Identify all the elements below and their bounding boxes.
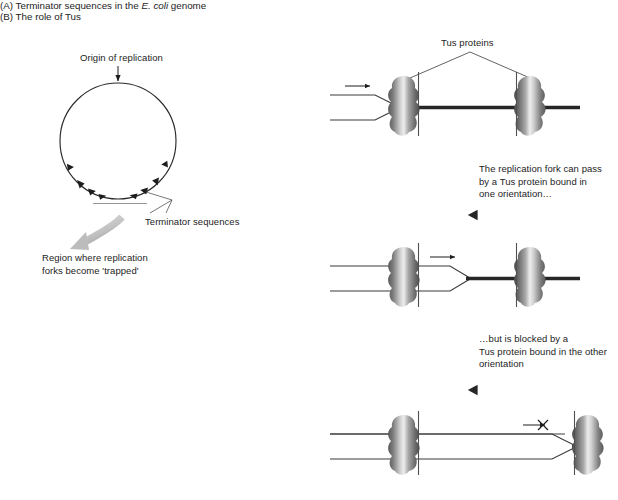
tus-protein-stage2-right xyxy=(514,243,546,307)
tus-protein-stage3-right xyxy=(572,411,604,475)
tus-protein-stage3-left xyxy=(388,411,420,475)
dna-stage-3 xyxy=(330,411,604,475)
dna-stage-1 xyxy=(330,72,580,136)
tus-protein-stage1-left xyxy=(388,72,420,136)
dna-stage-2 xyxy=(330,243,580,307)
tus-label-leader-lines xyxy=(410,52,530,78)
blocked-fork-arrow xyxy=(523,420,548,430)
figure-root: (A) Terminator sequences in the E. coli … xyxy=(0,0,618,500)
trapped-region-curved-arrow xyxy=(70,217,122,250)
figure-vector-layer xyxy=(0,0,618,500)
terminator-arrowheads xyxy=(66,161,168,204)
tus-protein-stage2-left xyxy=(388,243,420,307)
ecoli-genome-circle xyxy=(60,83,176,199)
terminator-leader-lines xyxy=(146,192,172,213)
tus-protein-stage1-right xyxy=(514,72,546,136)
